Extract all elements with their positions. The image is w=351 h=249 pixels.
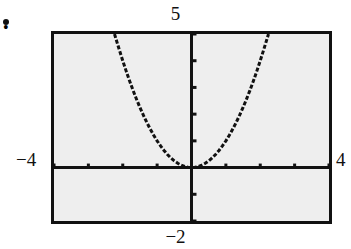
- axis-label-xmax: 4: [336, 150, 346, 169]
- axis-label-xmin: −4: [16, 150, 36, 169]
- graph-screen-frame: [51, 31, 332, 224]
- graph-plot-svg: [54, 34, 329, 221]
- axis-label-ymin: −2: [0, 227, 351, 246]
- axes-group: [54, 34, 329, 221]
- axis-label-ymax: 5: [0, 4, 351, 23]
